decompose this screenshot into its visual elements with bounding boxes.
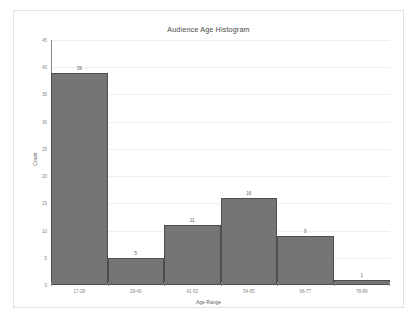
y-axis-tick-label: 10 (42, 228, 47, 233)
y-axis-tick-label: 35 (42, 92, 47, 97)
x-axis-tick (51, 282, 52, 286)
bar-slot: 16 (221, 40, 278, 285)
x-axis-tick (389, 282, 390, 286)
x-axis-tick (108, 282, 109, 286)
x-axis-tick-labels: 17-2829-4041-5354-6566-7778-89 (51, 289, 390, 294)
x-axis-tick-label: 29-40 (108, 289, 165, 294)
x-axis-tick-label: 78-89 (334, 289, 391, 294)
x-axis-tick-label: 54-65 (221, 289, 278, 294)
bar[interactable] (164, 225, 221, 285)
bar[interactable] (51, 73, 108, 285)
x-axis-tick (164, 282, 165, 286)
chart-card: Audience Age Histogram Count 05101520253… (13, 10, 404, 308)
x-axis-tick-label: 17-28 (51, 289, 108, 294)
bar-value-label: 39 (51, 66, 108, 71)
y-axis-tick-label: 30 (42, 119, 47, 124)
bar[interactable] (108, 258, 165, 285)
chart-title: Audience Age Histogram (14, 25, 403, 34)
x-axis-tick (334, 282, 335, 286)
bar[interactable] (277, 236, 334, 285)
bar[interactable] (221, 198, 278, 285)
bar-slot: 11 (164, 40, 221, 285)
bar-slot: 5 (108, 40, 165, 285)
x-axis-tick-label: 41-53 (164, 289, 221, 294)
bar-value-label: 9 (277, 229, 334, 234)
bar-value-label: 1 (334, 273, 391, 278)
bar-slot: 39 (51, 40, 108, 285)
y-axis-tick-label: 40 (42, 65, 47, 70)
bar-value-label: 11 (164, 218, 221, 223)
bar-series: 395111691 (51, 40, 390, 285)
y-axis-tick-label: 5 (44, 255, 47, 260)
x-axis-tick (221, 282, 222, 286)
bar-slot: 1 (334, 40, 391, 285)
plot-area: 051015202530354045 395111691 (51, 40, 390, 285)
bar-value-label: 5 (108, 251, 165, 256)
bar[interactable] (334, 280, 391, 285)
bar-value-label: 16 (221, 191, 278, 196)
x-axis-tick (277, 282, 278, 286)
y-axis-tick-label: 45 (42, 38, 47, 43)
y-axis-tick-label: 0 (44, 283, 47, 288)
y-axis-tick-label: 20 (42, 174, 47, 179)
x-axis-title: Age Range (14, 299, 403, 305)
bar-slot: 9 (277, 40, 334, 285)
y-axis-tick-label: 25 (42, 146, 47, 151)
y-axis-tick-label: 15 (42, 201, 47, 206)
x-axis-tick-label: 66-77 (277, 289, 334, 294)
y-axis-title: Count (32, 152, 38, 165)
